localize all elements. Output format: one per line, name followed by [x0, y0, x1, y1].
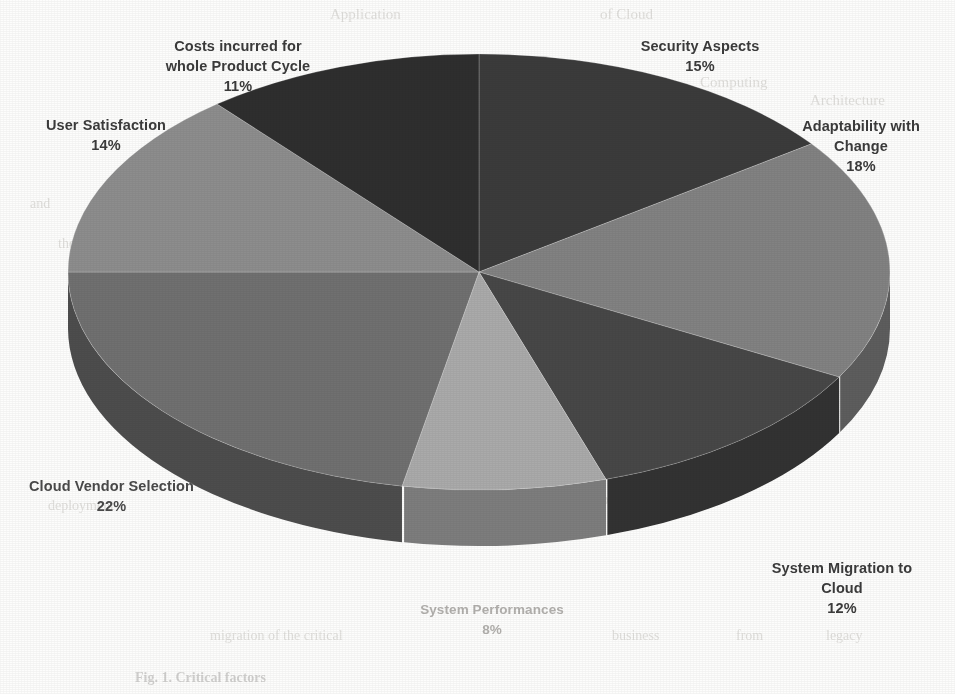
slice-label-vendor-line1: Cloud Vendor Selection	[29, 478, 194, 494]
slice-label-adaptability: Adaptability with Change 18%	[772, 116, 950, 176]
slice-label-security-aspects: Security Aspects 15%	[600, 36, 800, 76]
slice-label-migration-line1: System Migration to	[772, 560, 912, 576]
pie-chart-svg	[0, 0, 955, 650]
slice-label-performance-line1: System Performances	[420, 602, 564, 617]
slice-label-user-satisfaction: User Satisfaction 14%	[6, 115, 206, 155]
slice-label-cloud-vendor-selection: Cloud Vendor Selection 22%	[4, 476, 219, 516]
slice-value-security: 15%	[600, 56, 800, 76]
pie-chart	[0, 0, 955, 650]
slice-label-security-line1: Security Aspects	[641, 38, 760, 54]
slice-label-costs-incurred: Costs incurred for whole Product Cycle 1…	[138, 36, 338, 96]
figure-page: Applicationof CloudComputingArchitecture…	[0, 0, 955, 694]
slice-label-costs-line1: Costs incurred for	[174, 38, 302, 54]
slice-label-adapt-line2: Change	[834, 138, 888, 154]
slice-value-system-migration: 12%	[742, 598, 942, 618]
slice-label-system-migration: System Migration to Cloud 12%	[742, 558, 942, 618]
slice-label-system-performances: System Performances 8%	[372, 600, 612, 640]
slice-value-user-satisfaction: 14%	[6, 135, 206, 155]
slice-value-cloud-vendor: 22%	[4, 496, 219, 516]
slice-label-migration-line2: Cloud	[821, 580, 863, 596]
slice-value-system-performances: 8%	[372, 620, 612, 640]
slice-label-user-line1: User Satisfaction	[46, 117, 166, 133]
slice-value-adaptability: 18%	[772, 156, 950, 176]
figure-caption: Fig. 1. Critical factors	[135, 670, 266, 686]
slice-value-costs: 11%	[138, 76, 338, 96]
slice-label-adapt-line1: Adaptability with	[802, 118, 920, 134]
slice-label-costs-line2: whole Product Cycle	[166, 58, 311, 74]
